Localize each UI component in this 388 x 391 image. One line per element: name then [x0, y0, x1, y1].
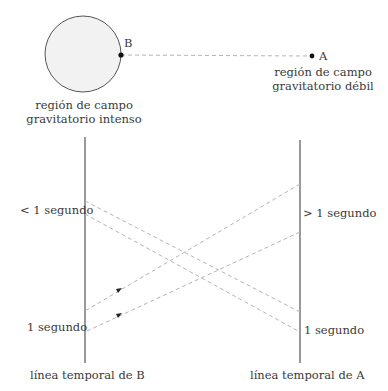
- weak-region-label-2: gravitatorio débil: [272, 79, 374, 93]
- b-to-a-dashed-line: [121, 55, 311, 56]
- strong-region-label-2: gravitatorio intenso: [26, 112, 141, 126]
- point-a-label: A: [319, 49, 327, 63]
- signal-b-to-a-1: [85, 201, 300, 312]
- timeline-a-label: línea temporal de A: [250, 368, 365, 382]
- timeline-a-upper-mark: > 1 segundo: [303, 206, 376, 220]
- strong-region-label-1: región de campo: [35, 98, 133, 112]
- weak-region-label-1: región de campo: [274, 65, 372, 79]
- point-b-label: B: [124, 36, 132, 50]
- strong-field-circle: [45, 16, 121, 92]
- signal-a-to-b-2: [85, 232, 300, 332]
- timeline-b-lower-mark: 1 segundo: [27, 320, 87, 334]
- timeline-b-label: línea temporal de B: [30, 368, 145, 382]
- timeline-a-lower-mark: 1 segundo: [304, 323, 364, 337]
- point-a-dot: [310, 54, 315, 59]
- point-b-dot: [118, 52, 123, 57]
- timeline-b-upper-mark: < 1 segundo: [20, 203, 93, 217]
